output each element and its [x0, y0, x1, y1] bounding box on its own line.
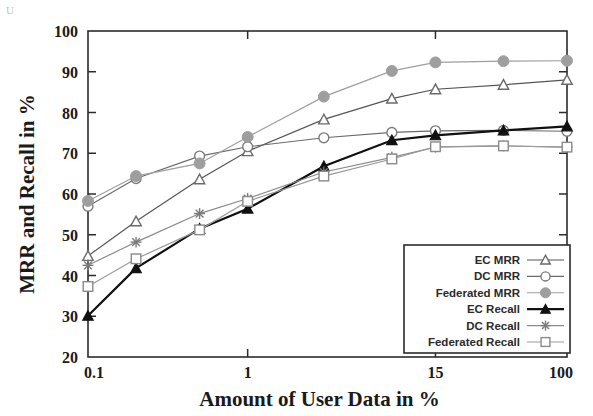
x-tick-label: 100	[549, 364, 573, 381]
marker-square-open	[431, 142, 441, 152]
marker-circle-open	[541, 272, 550, 281]
marker-square-open	[499, 141, 509, 151]
marker-circle-filled	[430, 57, 441, 68]
marker-circle-filled	[242, 131, 253, 142]
marker-square-open	[131, 254, 141, 264]
marker-square-open	[195, 225, 205, 235]
marker-circle-filled	[318, 91, 329, 102]
marker-circle-open	[319, 133, 329, 143]
legend-label-4: DC Recall	[466, 320, 520, 332]
y-tick-label: 20	[62, 349, 78, 366]
marker-asterisk	[131, 237, 142, 248]
marker-circle-filled	[540, 288, 550, 298]
marker-square-open	[83, 282, 93, 292]
x-tick-label: 15	[427, 364, 443, 381]
legend: EC MRRDC MRRFederated MRREC RecallDC Rec…	[404, 245, 570, 353]
x-tick-label: 1	[244, 364, 252, 381]
chart-figure: U 20304050607080901000.1115100Amount of …	[0, 0, 593, 416]
marker-triangle-open	[131, 216, 141, 226]
y-tick-label: 40	[62, 268, 78, 285]
marker-circle-filled	[498, 56, 509, 67]
y-axis-title: MRR and Recall in %	[15, 94, 39, 294]
legend-label-1: DC MRR	[474, 270, 521, 282]
marker-triangle-open	[194, 174, 204, 184]
y-tick-label: 100	[54, 23, 78, 40]
marker-circle-filled	[194, 158, 205, 169]
marker-circle-filled	[83, 195, 94, 206]
y-tick-label: 50	[62, 227, 78, 244]
legend-label-0: EC MRR	[475, 254, 521, 266]
marker-square-open	[387, 154, 397, 164]
marker-square-open	[319, 171, 329, 181]
marker-asterisk	[194, 208, 205, 219]
y-tick-label: 90	[62, 64, 78, 81]
marker-triangle-filled	[131, 263, 141, 273]
marker-circle-open	[243, 142, 253, 152]
x-tick-label: 0.1	[84, 364, 104, 381]
marker-triangle-open	[319, 114, 329, 124]
marker-square-open	[541, 338, 550, 347]
y-tick-label: 70	[62, 145, 78, 162]
marker-square-open	[243, 197, 253, 207]
legend-label-3: EC Recall	[467, 303, 520, 315]
marker-circle-filled	[562, 55, 573, 66]
marker-triangle-open	[83, 251, 93, 261]
marker-asterisk	[540, 321, 550, 331]
line-chart: 20304050607080901000.1115100Amount of Us…	[0, 0, 593, 416]
marker-circle-filled	[131, 171, 142, 182]
marker-square-open	[562, 142, 572, 152]
y-tick-label: 80	[62, 105, 78, 122]
y-tick-label: 60	[62, 186, 78, 203]
x-axis-title: Amount of User Data in %	[199, 387, 440, 411]
marker-circle-filled	[386, 65, 397, 76]
y-tick-label: 30	[62, 308, 78, 325]
marker-triangle-open	[562, 75, 572, 85]
legend-label-5: Federated Recall	[428, 336, 520, 348]
marker-asterisk	[83, 260, 94, 271]
scan-artifact: U	[6, 4, 14, 16]
legend-label-2: Federated MRR	[436, 287, 521, 299]
